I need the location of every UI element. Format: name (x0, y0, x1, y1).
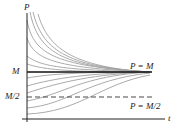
logistic-growth-figure: P t M M/2 P = M P = M/2 (0, 0, 177, 131)
equilibrium-label-m: P = M (130, 62, 153, 71)
x-axis-label: t (168, 114, 171, 123)
tick-label-m-half: M/2 (5, 92, 20, 101)
tick-label-m: M (12, 67, 20, 76)
y-axis-label: P (24, 3, 30, 12)
equilibrium-label-m-half: P = M/2 (130, 102, 160, 111)
